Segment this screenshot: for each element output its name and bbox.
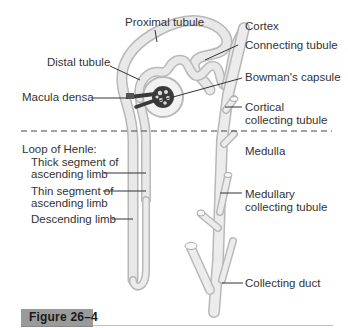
label-thick-segment-2: ascending limb — [31, 168, 108, 181]
label-collecting-duct: Collecting duct — [245, 277, 320, 290]
figure-caption: Figure 26–4 — [29, 310, 98, 324]
label-bowmans-capsule: Bowman's capsule — [245, 71, 341, 84]
label-thin-segment-2: ascending limb — [31, 197, 108, 210]
label-macula-densa: Macula densa — [22, 91, 94, 104]
label-medullary-collecting-2: collecting tubule — [245, 201, 327, 214]
label-connecting-tubule: Connecting tubule — [245, 39, 338, 52]
label-cortex: Cortex — [245, 20, 279, 33]
figure-rule — [93, 325, 333, 326]
label-proximal-tubule: Proximal tubule — [125, 16, 204, 29]
label-cortical-collecting-2: collecting tubule — [245, 114, 327, 127]
label-cortical-collecting-1: Cortical — [245, 101, 284, 114]
label-loop-of-henle: Loop of Henle: — [22, 143, 97, 156]
label-medullary-collecting-1: Medullary — [245, 188, 295, 201]
label-medulla: Medulla — [245, 145, 285, 158]
label-descending-limb: Descending limb — [31, 213, 116, 226]
label-distal-tubule: Distal tubule — [47, 56, 110, 69]
